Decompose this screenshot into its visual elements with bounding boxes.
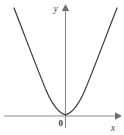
x-axis-arrow-icon bbox=[115, 112, 122, 120]
x-axis-label: x bbox=[110, 122, 116, 133]
origin-label: 0 bbox=[59, 118, 64, 128]
y-axis-arrow-icon bbox=[62, 4, 69, 11]
graph-canvas: y x 0 bbox=[0, 0, 124, 135]
y-axis-label: y bbox=[53, 3, 59, 14]
parabola-figure: y x 0 bbox=[0, 0, 124, 135]
